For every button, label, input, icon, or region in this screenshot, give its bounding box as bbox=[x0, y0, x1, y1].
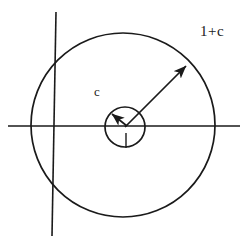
annulus-figure: 1+c c bbox=[0, 0, 250, 251]
imaginary-axis bbox=[52, 12, 56, 236]
annulus-region-label: c bbox=[94, 85, 100, 98]
outer-radius-label: 1+c bbox=[200, 24, 224, 39]
outer-radius-arrow bbox=[125, 66, 186, 127]
inner-radius-arrow bbox=[112, 114, 127, 126]
outer-circle bbox=[31, 33, 215, 217]
